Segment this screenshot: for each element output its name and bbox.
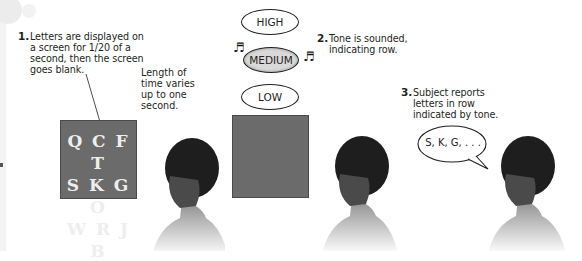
decorative-circle [0, 0, 22, 24]
music-note-icon: ♬ [233, 41, 245, 54]
step-2-text: 2. Tone is sounded, indicating row. [329, 33, 439, 55]
letter-row: W R J B [61, 218, 136, 261]
tone-medium-active: MEDIUM [243, 47, 299, 73]
blank-screen [232, 115, 309, 198]
letter-row: S K G O [61, 174, 136, 218]
tone-high: HIGH [241, 9, 299, 35]
delay-note: Length of time varies up to one second. [141, 67, 201, 111]
subject-figure [318, 134, 398, 251]
decorative-circle [22, 4, 36, 18]
music-note-icon: ♬ [303, 50, 315, 63]
page-edge [0, 0, 6, 251]
letter-row: Q C F T [61, 130, 136, 174]
subject-figure [150, 136, 225, 251]
cropped-glyph [0, 163, 3, 167]
tone-low: LOW [241, 84, 299, 110]
letter-screen: Q C F T S K G O W R J B [60, 120, 137, 199]
subject-figure [482, 132, 582, 251]
step-3-text: 3. Subject reports letters in row indica… [413, 87, 523, 120]
leader-line [80, 72, 120, 124]
speech-bubble-text: S, K, G, . . . [420, 137, 486, 148]
